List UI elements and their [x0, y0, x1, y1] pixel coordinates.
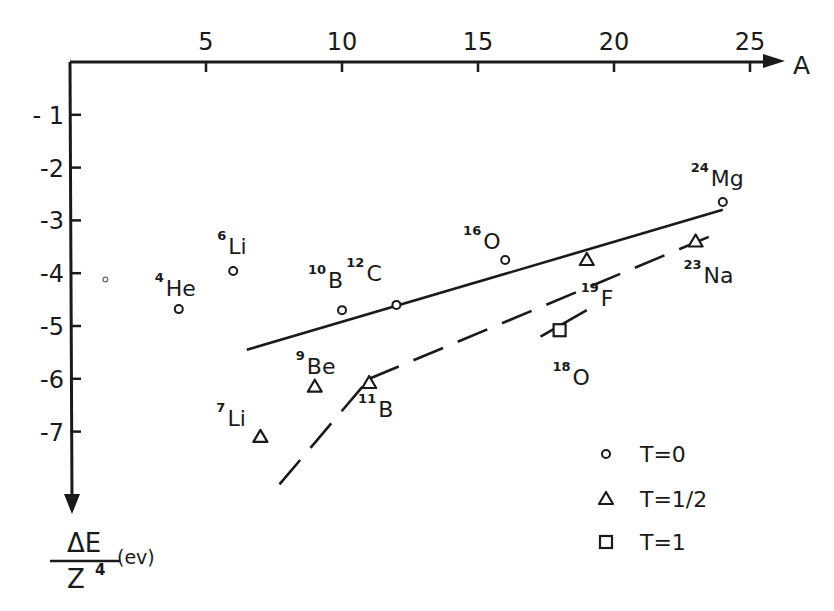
circle-marker-icon — [392, 301, 400, 309]
mass-number: 10 — [308, 262, 326, 277]
x-tick-label: 15 — [463, 28, 494, 56]
mass-number: 9 — [296, 348, 305, 363]
x-tick-label: 20 — [599, 28, 630, 56]
mass-number: 7 — [216, 400, 225, 415]
element-symbol: Na — [704, 263, 734, 288]
circle-marker-icon — [602, 450, 610, 458]
square-marker-icon — [600, 536, 612, 548]
circle-marker-icon — [175, 305, 183, 313]
y-tick-label: -4 — [40, 260, 64, 288]
nucleus-label-11-b: 11B — [358, 391, 393, 422]
x-tick-label: 25 — [735, 28, 766, 56]
small-circle-marker-icon — [103, 277, 108, 282]
mass-number: 4 — [155, 270, 164, 285]
nucleus-label-16-o: 16O — [463, 223, 500, 254]
y-axis-label: ΔE Z 4 (ev) — [50, 528, 155, 594]
chart: 510152025- 1-2-3-4-5-6-7 4He6Li10B12C16O… — [0, 0, 834, 611]
nucleus-label-23-na: 23Na — [684, 257, 734, 288]
nucleus-labels: 4He6Li10B12C16O24Mg7Li9Be11B19F23Na18O — [155, 160, 744, 431]
mass-number: 23 — [684, 257, 702, 272]
legend-item: T=1 — [600, 530, 686, 555]
element-symbol: O — [483, 229, 500, 254]
element-symbol: Be — [307, 354, 336, 379]
legend: T=0T=1/2T=1 — [599, 442, 707, 555]
z-exponent: 4 — [95, 561, 105, 579]
element-symbol: B — [328, 268, 343, 293]
y-tick-label: -6 — [40, 366, 64, 394]
y-tick-label: -5 — [40, 313, 64, 341]
element-symbol: C — [366, 261, 381, 286]
element-symbol: B — [378, 397, 393, 422]
nucleus-label-7-li: 7Li — [216, 400, 245, 431]
axis-ticks: 510152025- 1-2-3-4-5-6-7 — [32, 28, 765, 447]
legend-label: T=0 — [639, 442, 686, 467]
nucleus-label-12-c: 12C — [346, 255, 381, 286]
x-axis-label: A — [793, 51, 810, 80]
circle-marker-icon — [501, 256, 509, 264]
element-symbol: F — [601, 286, 614, 311]
triangle-marker-icon — [253, 430, 267, 442]
mass-number: 6 — [217, 228, 226, 243]
element-symbol: Li — [228, 234, 246, 259]
y-tick-label: -7 — [40, 419, 64, 447]
unit-ev: (ev) — [117, 546, 155, 568]
dashed-trend-line — [279, 379, 369, 485]
element-symbol: He — [166, 276, 196, 301]
mass-number: 18 — [553, 359, 571, 374]
element-symbol: O — [573, 365, 590, 390]
dashed-trend-line — [369, 231, 723, 379]
square-marker-icon — [554, 324, 566, 336]
nucleus-label-18-o: 18O — [553, 359, 590, 390]
element-symbol: Li — [227, 406, 245, 431]
mass-number: 12 — [346, 255, 364, 270]
nucleus-label-9-be: 9Be — [296, 348, 336, 379]
circle-marker-icon — [719, 198, 727, 206]
x-tick-label: 5 — [198, 28, 213, 56]
nucleus-label-4-he: 4He — [155, 270, 196, 301]
nucleus-label-6-li: 6Li — [217, 228, 246, 259]
nucleus-label-19-f: 19F — [581, 280, 614, 311]
circle-marker-icon — [338, 306, 346, 314]
mass-number: 11 — [358, 391, 376, 406]
mass-number: 19 — [581, 280, 599, 295]
triangle-marker-icon — [308, 380, 322, 392]
data-points — [103, 198, 727, 442]
triangle-marker-icon — [580, 253, 594, 265]
y-tick-label: - 1 — [32, 102, 64, 130]
legend-label: T=1 — [639, 530, 686, 555]
z-text: Z — [67, 564, 85, 594]
circle-marker-icon — [229, 267, 237, 275]
x-tick-label: 10 — [327, 28, 358, 56]
legend-item: T=0 — [602, 442, 686, 467]
legend-item: T=1/2 — [599, 487, 707, 512]
nucleus-label-10-b: 10B — [308, 262, 343, 293]
triangle-marker-icon — [599, 492, 613, 504]
y-tick-label: -3 — [40, 207, 64, 235]
mass-number: 24 — [691, 160, 709, 175]
mass-number: 16 — [463, 223, 481, 238]
nucleus-label-24-mg: 24Mg — [691, 160, 744, 191]
y-axis-arrow-icon — [64, 494, 80, 514]
element-symbol: Mg — [711, 166, 744, 191]
legend-label: T=1/2 — [639, 487, 707, 512]
delta-e-text: ΔE — [67, 528, 101, 558]
y-tick-label: -2 — [40, 155, 64, 183]
y-axis-line — [70, 62, 72, 500]
x-axis-arrow-icon — [763, 54, 785, 68]
